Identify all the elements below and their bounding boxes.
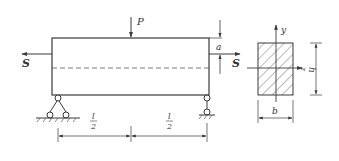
span-dimensions: l 2 l 2: [58, 112, 207, 142]
left-force-s: S: [22, 54, 52, 70]
beam: [52, 38, 209, 95]
diagram-canvas: P S S a: [0, 0, 339, 161]
beam-body: [52, 38, 209, 95]
span-left-num: l: [92, 112, 95, 121]
eccentricity-dimension: a: [209, 20, 222, 74]
span-right-den: 2: [166, 122, 172, 131]
cross-section-body: [258, 43, 293, 95]
load-p-label: P: [136, 16, 144, 27]
z-axis-label: z: [299, 66, 308, 72]
height-dimension: h: [307, 43, 322, 95]
y-axis-label: y: [280, 25, 287, 35]
span-right-num: l: [168, 112, 171, 121]
load-p: P: [131, 16, 144, 37]
cross-section: y z: [247, 25, 308, 102]
left-force-label: S: [22, 57, 30, 70]
eccentricity-label: a: [216, 42, 221, 52]
width-dimension: b: [258, 100, 293, 123]
span-left-den: 2: [90, 122, 96, 131]
width-label: b: [272, 106, 278, 116]
left-pin-support: [36, 95, 80, 122]
right-force-label: S: [232, 57, 240, 70]
right-roller-support: [199, 95, 215, 119]
right-force-s: S: [209, 54, 240, 70]
height-label: h: [307, 67, 317, 73]
